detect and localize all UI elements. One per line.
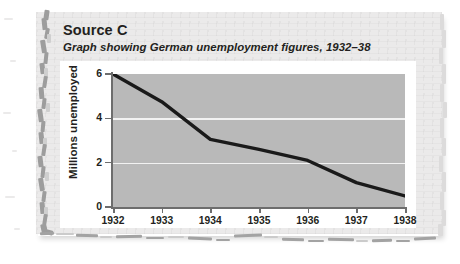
y-tick-0 <box>105 206 112 208</box>
x-tick-1936 <box>308 207 310 213</box>
x-tick-label-1932: 1932 <box>93 215 133 226</box>
x-tick-1934 <box>210 207 212 213</box>
unemployment-line-chart: Millions unemployed 6 4 2 0 1932 19 <box>60 61 416 228</box>
x-tick-label-1935: 1935 <box>239 215 279 226</box>
figure-caption: Graph showing German unemployment figure… <box>63 41 371 53</box>
x-tick-label-1934: 1934 <box>190 215 230 226</box>
chart-card: Millions unemployed 6 4 2 0 1932 19 <box>60 61 416 228</box>
y-tick-label-0: 0 <box>86 200 102 212</box>
y-tick-label-4: 4 <box>86 111 102 123</box>
x-tick-label-1937: 1937 <box>336 215 376 226</box>
y-tick-6 <box>105 73 112 75</box>
x-tick-label-1936: 1936 <box>288 215 328 226</box>
x-tick-label-1933: 1933 <box>142 215 182 226</box>
torn-edge-left <box>30 8 56 240</box>
x-tick-1932 <box>113 207 115 213</box>
y-axis-label: Millions unemployed <box>67 62 79 182</box>
x-tick-1933 <box>162 207 164 213</box>
y-tick-4 <box>105 118 112 120</box>
y-tick-2 <box>105 162 112 164</box>
x-tick-1938 <box>405 207 407 213</box>
y-tick-label-2: 2 <box>86 156 102 168</box>
x-tick-label-1938: 1938 <box>385 215 425 226</box>
background-paper-texture <box>0 0 34 264</box>
y-tick-label-6: 6 <box>86 67 102 79</box>
unemployment-series-line <box>113 74 405 207</box>
torn-edge-right <box>428 10 450 238</box>
x-tick-1935 <box>259 207 261 213</box>
page-title: Source C <box>63 22 127 38</box>
source-figure: Source C Graph showing German unemployme… <box>0 0 460 264</box>
x-tick-1937 <box>356 207 358 213</box>
